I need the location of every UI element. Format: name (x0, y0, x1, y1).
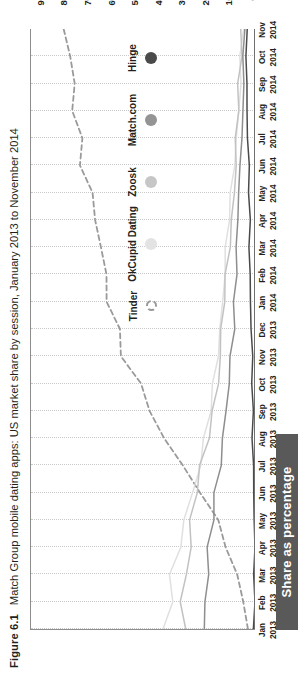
chart-legend: TinderOkCupid DatingZooskMatch.comHinge (127, 27, 157, 337)
legend-item-hinge[interactable]: Hinge (127, 27, 157, 89)
y-axis-tick-label: 10% (224, 0, 234, 6)
legend-marker-icon (145, 52, 157, 64)
y-axis-tick-label: 50% (130, 0, 140, 6)
figure-caption-text: Match Group mobile dating apps: US marke… (8, 128, 20, 605)
y-axis-tick-label: 80% (59, 0, 69, 6)
series-line-zoosk (180, 29, 242, 629)
legend-marker-icon (146, 301, 157, 312)
legend-marker-icon (145, 114, 157, 126)
rotated-page-host: Figure 6.1Match Group mobile dating apps… (0, 0, 304, 676)
y-axis-tick-label: 40% (154, 0, 164, 6)
y-axis-tick-label: 90% (36, 0, 46, 6)
legend-label: Hinge (127, 44, 138, 72)
y-axis-title: Share as percentage (276, 434, 298, 630)
y-axis-tick-label: 20% (201, 0, 211, 6)
series-line-match-com (204, 29, 245, 629)
y-axis-tick-label: 30% (177, 0, 187, 6)
legend-item-match-com[interactable]: Match.com (127, 89, 157, 151)
legend-label: Match.com (127, 94, 138, 146)
figure-number: Figure 6.1 (8, 614, 20, 668)
x-axis-baseline (254, 29, 255, 629)
y-axis-title-band: Share as percentage (276, 434, 298, 630)
x-tick-year: 2014 (269, 13, 280, 47)
legend-label: Tinder (128, 291, 139, 321)
legend-item-zoosk[interactable]: Zoosk (127, 151, 157, 213)
x-axis-tick-label: Nov2014 (258, 13, 279, 47)
legend-item-tinder[interactable]: Tinder (128, 275, 157, 337)
legend-label: Zoosk (127, 167, 138, 196)
figure-container: Figure 6.1Match Group mobile dating apps… (0, 0, 304, 676)
legend-label: OkCupid Dating (127, 206, 138, 282)
series-line-okcupid-dating (163, 29, 244, 629)
legend-marker-icon (145, 238, 157, 250)
legend-item-okcupid-dating[interactable]: OkCupid Dating (127, 213, 157, 275)
y-axis-tick-label: 70% (83, 0, 93, 6)
legend-marker-icon (145, 176, 157, 188)
x-tick-month: Nov (258, 13, 269, 47)
figure-caption: Figure 6.1Match Group mobile dating apps… (8, 8, 20, 668)
plot-area: 0%10%20%30%40%50%60%70%80%90% TinderOkCu… (30, 29, 255, 630)
y-axis-tick-label: 60% (107, 0, 117, 6)
